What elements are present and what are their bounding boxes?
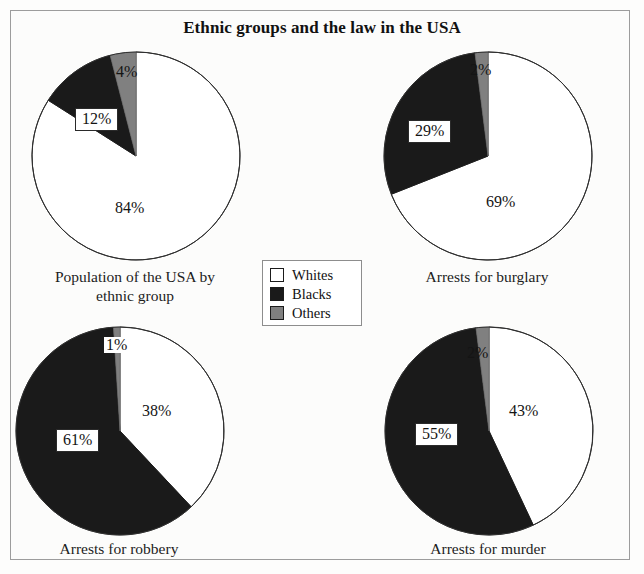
pie-robbery-label-others: 1% (104, 337, 129, 353)
pie-murder-label-blacks: 55% (415, 423, 458, 446)
ethnic-group-legend: Whites Blacks Others (262, 260, 362, 326)
pie-murder-label-others: 2% (467, 345, 488, 361)
pie-population-caption-line2: ethnic group (5, 287, 265, 306)
legend-item-whites: Whites (270, 266, 361, 284)
pie-population-caption: Population of the USA by ethnic group (5, 268, 265, 306)
figure-canvas: Ethnic groups and the law in the USA 4% … (0, 0, 644, 574)
legend-item-blacks: Blacks (270, 285, 361, 303)
pie-chart-murder: 2% 55% 43% (383, 325, 593, 535)
legend-label-others: Others (292, 306, 331, 321)
pie-burglary-caption: Arrests for burglary (357, 268, 617, 287)
pie-burglary-label-blacks: 29% (408, 120, 451, 143)
pie-murder-caption: Arrests for murder (358, 540, 618, 559)
pie-chart-burglary: 2% 29% 69% (382, 50, 592, 260)
legend-swatch-whites (270, 268, 284, 282)
pie-burglary-caption-line1: Arrests for burglary (357, 268, 617, 287)
figure-title: Ethnic groups and the law in the USA (0, 18, 644, 38)
pie-population-caption-line1: Population of the USA by (5, 268, 265, 287)
pie-robbery-slices (16, 327, 224, 535)
pie-burglary-slices (384, 52, 592, 260)
pie-murder-caption-line1: Arrests for murder (358, 540, 618, 559)
pie-robbery-caption: Arrests for robbery (0, 540, 249, 559)
pie-burglary-label-others: 2% (470, 62, 491, 78)
legend-label-blacks: Blacks (292, 287, 331, 302)
pie-population-svg (30, 50, 242, 262)
legend-swatch-blacks (270, 287, 284, 301)
legend-item-others: Others (270, 304, 361, 322)
pie-chart-population: 4% 12% 84% (30, 50, 240, 260)
pie-population-label-whites: 84% (115, 200, 144, 216)
legend-label-whites: Whites (292, 268, 333, 283)
pie-robbery-caption-line1: Arrests for robbery (0, 540, 249, 559)
legend-swatch-others (270, 306, 284, 320)
pie-robbery-label-blacks: 61% (56, 429, 99, 452)
pie-burglary-label-whites: 69% (486, 194, 515, 210)
pie-chart-robbery: 1% 61% 38% (14, 325, 224, 535)
pie-population-label-others: 4% (116, 64, 137, 80)
pie-robbery-label-whites: 38% (142, 403, 171, 419)
pie-population-slices (32, 52, 240, 260)
pie-population-label-blacks: 12% (75, 108, 118, 131)
pie-robbery-svg (14, 325, 226, 537)
pie-murder-label-whites: 43% (509, 403, 538, 419)
pie-burglary-svg (382, 50, 594, 262)
